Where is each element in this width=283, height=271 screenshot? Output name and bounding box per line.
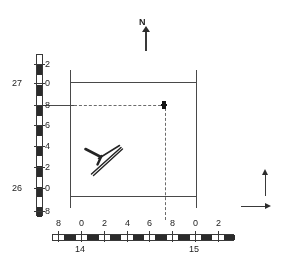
easting-scale-bar — [52, 234, 234, 241]
arrow-up-icon — [265, 174, 266, 196]
grid-edge-top — [70, 82, 197, 83]
scale-segment — [37, 65, 42, 75]
easting-tick-mark — [195, 231, 196, 242]
scale-segment — [178, 235, 189, 240]
scale-segment — [37, 85, 42, 95]
scale-segment — [87, 235, 98, 240]
northing-tick-label: 2 — [45, 163, 50, 172]
northing-tick-label: 2 — [45, 60, 50, 69]
easting-tick-label: 4 — [125, 219, 130, 228]
northing-major-label: 26 — [12, 184, 22, 193]
easting-major-label: 15 — [189, 245, 199, 254]
northing-tick-label: 6 — [45, 121, 50, 130]
construction-line-horizontal — [74, 105, 166, 106]
northing-tick-label: 0 — [45, 79, 50, 88]
easting-tick-label: 2 — [216, 219, 221, 228]
easting-tick-label: 0 — [193, 219, 198, 228]
northing-tick-mark — [34, 146, 45, 147]
easting-tick-mark — [149, 231, 150, 242]
northing-tick-mark — [34, 105, 45, 106]
grid-edge-left — [70, 70, 71, 208]
northing-major-label: 27 — [12, 79, 22, 88]
easting-tick-mark — [172, 231, 173, 242]
easting-tick-mark — [81, 231, 82, 242]
northing-tick-mark — [34, 167, 45, 168]
grid-edge-bottom — [70, 196, 197, 197]
northing-tick-mark — [34, 125, 45, 126]
scale-segment — [37, 106, 42, 116]
scale-segment — [224, 235, 235, 240]
northing-tick-mark — [34, 83, 45, 84]
scale-segment — [110, 235, 121, 240]
northing-tick-label: 0 — [45, 184, 50, 193]
northing-tick-label: 4 — [45, 142, 50, 151]
construction-line-vertical — [165, 108, 166, 220]
easting-tick-mark — [104, 231, 105, 242]
easting-tick-label: 8 — [56, 219, 61, 228]
northing-tick-mark — [34, 188, 45, 189]
scale-segment — [37, 146, 42, 156]
survey-plan-figure: N 202786420268 802468021415 — [0, 0, 283, 271]
easting-tick-mark — [218, 231, 219, 242]
scale-segment — [37, 126, 42, 136]
easting-tick-mark — [127, 231, 128, 242]
find-spot-marker — [162, 101, 166, 109]
scale-segment — [133, 235, 144, 240]
northing-scale-bar — [36, 54, 43, 216]
scale-segment — [155, 235, 166, 240]
northing-tick-label: 8 — [45, 207, 50, 216]
grid-edge-right — [196, 70, 197, 208]
easting-major-label: 14 — [75, 245, 85, 254]
northing-tick-mark — [34, 64, 45, 65]
northing-tick-mark — [34, 211, 45, 212]
easting-tick-label: 0 — [79, 219, 84, 228]
north-arrow-icon — [145, 31, 147, 51]
easting-tick-label: 2 — [102, 219, 107, 228]
easting-tick-label: 8 — [170, 219, 175, 228]
easting-tick-mark — [58, 231, 59, 242]
scale-segment — [201, 235, 212, 240]
northing-tick-label: 8 — [45, 101, 50, 110]
easting-tick-label: 6 — [147, 219, 152, 228]
scale-segment — [64, 235, 75, 240]
feature-symbol — [84, 142, 126, 182]
arrow-right-icon — [241, 206, 265, 207]
